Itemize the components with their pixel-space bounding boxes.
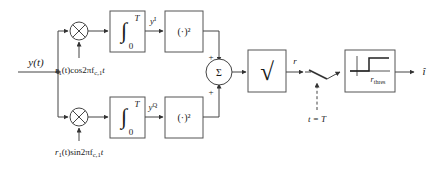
integral-lower-limit-i: 0	[129, 41, 134, 51]
squarer-block-q[interactable]: (·)²	[165, 97, 203, 138]
sqrt-symbol: √	[260, 58, 274, 85]
integrator-output-q-label: yQ	[148, 101, 158, 112]
squarer-label-i: (·)²	[178, 26, 191, 38]
sample-trigger-label: t = T	[308, 114, 327, 124]
quadrature-branch: r1(t)sin2πfc,1t ∫ T 0 yQ (·)² +	[55, 84, 219, 158]
integral-lower-limit-q: 0	[129, 127, 134, 137]
sampling-switch[interactable]: t = T	[305, 70, 340, 124]
sum-sign-q: +	[208, 87, 213, 97]
local-oscillator-i-label: r1(t)cos2πfc,1t	[55, 65, 105, 76]
threshold-detector-block[interactable]: rthres	[345, 50, 395, 92]
summing-junction[interactable]: Σ	[206, 59, 232, 85]
input-signal-label: y(t)	[27, 56, 44, 69]
multiplier-i[interactable]	[70, 22, 88, 40]
local-oscillator-q-label: r1(t)sin2πfc,1t	[55, 147, 104, 158]
squarer-block-i[interactable]: (·)²	[165, 11, 203, 52]
multiplier-q[interactable]	[70, 108, 88, 126]
in-phase-branch: r1(t)cos2πfc,1t ∫ T 0 yI (·)²	[55, 11, 219, 76]
block-diagram-figure: y(t) r1(t)cos2πfc,1t	[0, 0, 439, 169]
envelope-label: r	[293, 56, 297, 66]
integrator-block-q[interactable]: ∫ T 0	[110, 97, 145, 138]
integrator-output-i-label: yI	[149, 15, 156, 26]
square-root-block[interactable]: √	[248, 50, 286, 92]
output-estimate-label: î	[422, 65, 426, 77]
signal-flow-diagram: y(t) r1(t)cos2πfc,1t	[0, 0, 439, 169]
integrator-block-i[interactable]: ∫ T 0	[110, 11, 145, 52]
sigma-symbol: Σ	[216, 67, 222, 78]
squarer-label-q: (·)²	[178, 112, 191, 124]
